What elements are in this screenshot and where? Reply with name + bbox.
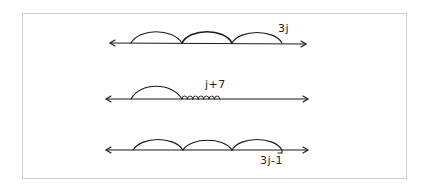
number-line-3 [106,140,308,154]
jump-arc [131,86,182,99]
jump-arc [131,32,182,43]
jump-arc [133,140,183,151]
number-line-1 [110,32,306,47]
jump-arc-step-back [232,140,282,154]
number-lines-drawing [0,0,429,188]
line-1-label: 3j [278,22,289,35]
jump-arc [182,32,232,43]
jump-arc [232,33,282,44]
line-2-label: j+7 [205,78,226,91]
line-3-label: 3j-1 [260,154,283,167]
jump-arc [183,140,232,150]
